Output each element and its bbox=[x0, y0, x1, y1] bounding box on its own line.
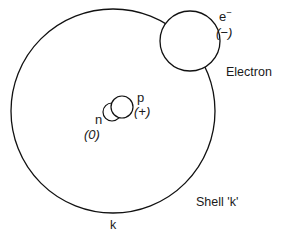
atom-diagram: e− (−) Electron p (+) n (0) Shell 'k' k bbox=[0, 0, 287, 240]
electron-symbol-label: e− bbox=[219, 10, 232, 23]
electron-symbol-superscript: − bbox=[226, 8, 231, 18]
neutron-symbol-label: n bbox=[95, 113, 102, 126]
neutron-charge-label: (0) bbox=[84, 128, 100, 141]
atom-diagram-canvas bbox=[0, 0, 287, 240]
shell-letter-label: k bbox=[110, 219, 116, 232]
electron-charge-label: (−) bbox=[216, 26, 232, 39]
electron-circle bbox=[160, 11, 220, 71]
shell-name-label: Shell 'k' bbox=[196, 196, 238, 209]
proton-symbol-label: p bbox=[137, 91, 144, 104]
proton-circle bbox=[111, 96, 133, 118]
proton-charge-label: (+) bbox=[134, 105, 150, 118]
electron-name-label: Electron bbox=[226, 66, 272, 79]
